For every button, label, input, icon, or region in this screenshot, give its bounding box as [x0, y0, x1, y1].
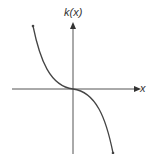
curve-endpoint-left	[32, 25, 35, 28]
function-graph: k(x) x	[0, 0, 148, 154]
y-axis-arrow-icon	[70, 22, 76, 29]
graph-canvas	[0, 0, 148, 154]
x-axis-label: x	[140, 82, 146, 94]
curve-endpoint-right	[112, 152, 115, 154]
y-axis-label: k(x)	[64, 6, 82, 18]
